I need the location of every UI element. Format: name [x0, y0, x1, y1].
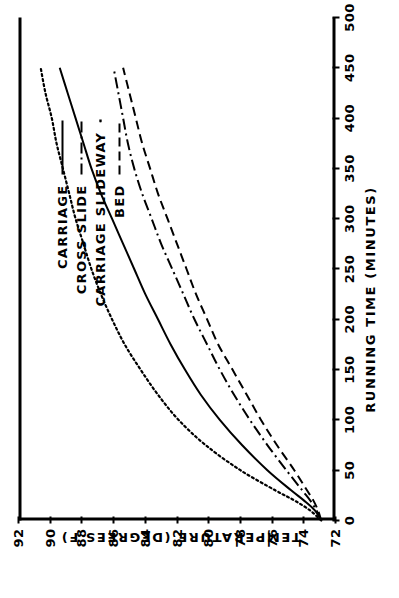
legend-item: CARRIAGE [52, 110, 71, 306]
legend-item: BED [109, 110, 128, 306]
legend-item-label: CARRIAGE SLIDEWAY [92, 131, 107, 306]
legend-line-sample-solid [57, 119, 67, 175]
legend-line-sample-dotted [95, 119, 105, 122]
y-axis-title: TEMPERATURE (DEGREES F) [20, 529, 340, 544]
x-axis-title: RUNNING TIME (MINUTES) [362, 0, 377, 598]
series-line-bed [123, 67, 321, 520]
legend-item-label: CROSS SLIDE [73, 184, 88, 294]
legend-item-label: CARRIAGE [54, 184, 69, 268]
rotated-page-wrapper: 050100150200250300350400450500 727476788… [0, 0, 399, 598]
legend-item: CROSS SLIDE [71, 110, 90, 306]
legend-line-sample-dashed [114, 119, 124, 175]
legend-line-sample-dashdot [76, 119, 86, 175]
chart-legend: CARRIAGECROSS SLIDECARRIAGE SLIDEWAYBED [52, 110, 128, 306]
chart-figure: 050100150200250300350400450500 727476788… [0, 0, 399, 598]
legend-item: CARRIAGE SLIDEWAY [90, 110, 109, 306]
legend-item-label: BED [111, 184, 126, 217]
